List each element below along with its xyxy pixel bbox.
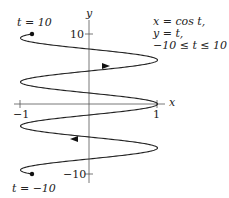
end-point — [30, 32, 34, 36]
direction-arrow-right — [102, 63, 110, 69]
direction-arrow-left — [70, 136, 78, 142]
y-tick-label-pos: 10 — [70, 29, 84, 40]
x-tick-label-pos: 1 — [153, 109, 160, 120]
x-tick-label-neg: −1 — [13, 109, 29, 120]
equation-x: x = cos t, — [153, 16, 205, 27]
y-tick-label-neg: −10 — [63, 169, 86, 180]
t-start-label: t = −10 — [12, 183, 56, 194]
plot-area — [0, 0, 229, 198]
x-axis-label: x — [169, 97, 175, 108]
start-point — [30, 172, 34, 176]
y-axis-label: y — [86, 8, 92, 19]
t-end-label: t = 10 — [17, 17, 52, 28]
equation-y: y = t, — [153, 28, 183, 39]
equation-t-range: −10 ≤ t ≤ 10 — [153, 40, 227, 51]
